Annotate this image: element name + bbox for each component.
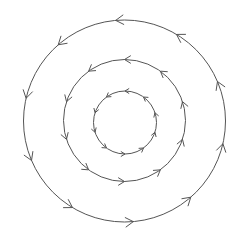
middle-circle xyxy=(64,60,186,182)
rings-group xyxy=(24,20,226,222)
diagram-svg xyxy=(0,0,246,245)
arrows-group xyxy=(23,15,226,227)
outer-circle xyxy=(24,20,226,222)
inner-circle xyxy=(94,91,157,154)
concentric-circles-diagram xyxy=(0,0,246,245)
